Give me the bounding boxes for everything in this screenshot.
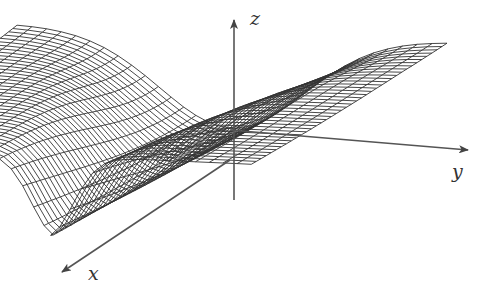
- surface-plot: x y z: [0, 0, 488, 302]
- axes: [0, 0, 488, 302]
- y-axis-label: y: [452, 160, 463, 182]
- z-axis-label: z: [250, 7, 260, 29]
- x-axis-label: x: [88, 262, 99, 284]
- y-axis-arrow: [230, 130, 468, 150]
- x-axis-arrow: [62, 160, 230, 272]
